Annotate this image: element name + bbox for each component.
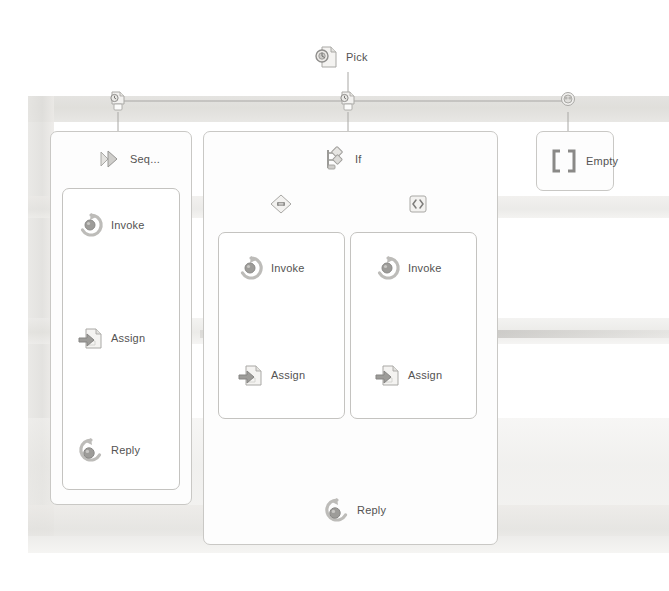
activity-node-invoke-seq[interactable]: Invoke <box>78 212 145 238</box>
activity-label-if: If <box>355 153 362 165</box>
workflow-canvas: Pick <box>0 0 669 591</box>
pick-branch-event-icon-3[interactable] <box>558 90 578 112</box>
activity-node-invoke-else[interactable]: Invoke <box>375 255 442 281</box>
activity-label-assign: Assign <box>111 332 145 344</box>
activity-node-pick[interactable]: Pick <box>313 44 368 70</box>
activity-label-invoke: Invoke <box>111 219 145 231</box>
activity-node-invoke-then[interactable]: Invoke <box>238 255 305 281</box>
pick-branch-trigger-icon-1[interactable] <box>108 90 128 112</box>
assign-icon <box>78 325 104 351</box>
if-icon <box>322 146 348 172</box>
activity-node-assign-seq[interactable]: Assign <box>78 325 145 351</box>
pick-icon <box>313 44 339 70</box>
activity-node-reply-seq[interactable]: Reply <box>78 437 140 463</box>
activity-label-empty: Empty <box>586 155 618 167</box>
activity-label-assign: Assign <box>408 369 442 381</box>
activity-node-sequence[interactable]: Seq... <box>97 146 160 172</box>
reply-icon <box>324 497 350 523</box>
sequence-icon <box>97 146 123 172</box>
decision-square-icon-false[interactable] <box>407 194 429 214</box>
invoke-icon <box>78 212 104 238</box>
activity-label-sequence: Seq... <box>130 153 160 165</box>
activity-node-assign-else[interactable]: Assign <box>375 362 442 388</box>
activity-label-invoke: Invoke <box>271 262 305 274</box>
activity-label-pick: Pick <box>346 51 368 63</box>
assign-icon <box>375 362 401 388</box>
invoke-icon <box>238 255 264 281</box>
activity-label-assign: Assign <box>271 369 305 381</box>
activity-label-reply: Reply <box>111 444 140 456</box>
activity-label-invoke: Invoke <box>408 262 442 274</box>
activity-node-assign-then[interactable]: Assign <box>238 362 305 388</box>
pick-branch-trigger-icon-2[interactable] <box>338 90 358 112</box>
empty-brackets-icon <box>549 148 579 174</box>
activity-node-reply-merge[interactable]: Reply <box>324 497 386 523</box>
activity-label-reply: Reply <box>357 504 386 516</box>
invoke-icon <box>375 255 401 281</box>
assign-icon <box>238 362 264 388</box>
reply-icon <box>78 437 104 463</box>
decision-diamond-icon-true[interactable] <box>270 194 292 214</box>
activity-node-empty[interactable]: Empty <box>549 148 618 174</box>
activity-node-if[interactable]: If <box>322 146 362 172</box>
